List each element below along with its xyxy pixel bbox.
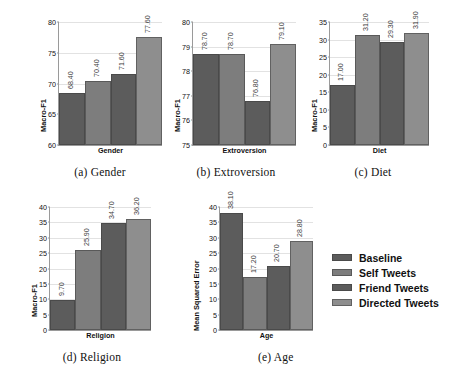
bar-value-label: 17.20 bbox=[250, 255, 258, 273]
bar[interactable] bbox=[245, 101, 271, 145]
y-tick-label: 10 bbox=[209, 295, 217, 304]
y-tick-label: 15 bbox=[209, 279, 217, 288]
bar-slot: 77.60 bbox=[136, 22, 162, 145]
plot-religion: Macro-F1 05101520253035409.7025.9034.703… bbox=[22, 199, 162, 375]
caption-diet: (c) Diet bbox=[303, 166, 443, 178]
y-tick-label: 35 bbox=[39, 218, 47, 227]
legend-item: Baseline bbox=[332, 250, 439, 265]
bar-slot: 79.10 bbox=[270, 22, 296, 145]
y-axis-title-extroversion: Macro-F1 bbox=[173, 99, 182, 132]
bar-value-label: 38.10 bbox=[227, 191, 235, 209]
y-tick-label: 80 bbox=[182, 18, 190, 27]
bar-slot: 71.60 bbox=[111, 22, 137, 145]
bar-value-label: 77.60 bbox=[144, 15, 152, 33]
bar[interactable] bbox=[193, 54, 219, 145]
bar[interactable] bbox=[270, 44, 296, 145]
axes-extroversion: 75767778798078.7078.7076.8079.10Extrover… bbox=[192, 22, 296, 146]
axes-age: 051015202530354038.1017.2020.7028.80Age bbox=[219, 207, 313, 331]
bar-value-label: 17.00 bbox=[338, 64, 346, 82]
y-tick-label: 0 bbox=[323, 141, 327, 150]
bar[interactable] bbox=[267, 266, 290, 330]
y-tick-label: 79 bbox=[182, 42, 190, 51]
bar-slot: 17.20 bbox=[243, 207, 266, 330]
legend-item: Friend Tweets bbox=[332, 280, 439, 295]
bar-value-label: 31.20 bbox=[362, 14, 370, 32]
bar[interactable] bbox=[50, 300, 75, 330]
bar[interactable] bbox=[126, 219, 151, 330]
y-tick-label: 35 bbox=[209, 218, 217, 227]
legend-swatch-friend-tweets bbox=[332, 284, 352, 291]
bar-value-label: 78.70 bbox=[227, 32, 235, 50]
bar-value-label: 79.10 bbox=[278, 22, 286, 40]
bar[interactable] bbox=[243, 277, 266, 330]
bar-value-label: 31.90 bbox=[412, 11, 420, 29]
bar[interactable] bbox=[404, 33, 429, 145]
y-tick-label: 0 bbox=[213, 326, 217, 335]
panel-age: Mean Squared Error 051015202530354038.10… bbox=[184, 199, 324, 375]
bar[interactable] bbox=[111, 74, 137, 145]
bar[interactable] bbox=[220, 213, 243, 330]
y-tick-label: 30 bbox=[209, 233, 217, 242]
y-tick-label: 25 bbox=[209, 249, 217, 258]
bar-group-extroversion: 78.7078.7076.8079.10 bbox=[193, 22, 296, 145]
caption-gender: (a) Gender bbox=[30, 166, 170, 178]
legend-item: Self Tweets bbox=[332, 265, 439, 280]
bar-slot: 31.90 bbox=[404, 22, 429, 145]
bar-value-label: 78.70 bbox=[201, 32, 209, 50]
bar-slot: 38.10 bbox=[220, 207, 243, 330]
bar[interactable] bbox=[59, 93, 85, 145]
bar-slot: 9.70 bbox=[50, 207, 75, 330]
y-tick-label: 25 bbox=[39, 249, 47, 258]
x-axis-label-extroversion: Extroversion bbox=[193, 146, 296, 155]
y-tick-label: 75 bbox=[182, 141, 190, 150]
bar[interactable] bbox=[85, 81, 111, 145]
y-axis-title-religion: Macro-F1 bbox=[30, 284, 39, 317]
y-tick-label: 20 bbox=[39, 264, 47, 273]
bar-value-label: 29.30 bbox=[387, 20, 395, 38]
bar-slot: 68.40 bbox=[59, 22, 85, 145]
bar[interactable] bbox=[75, 250, 100, 330]
bar-value-label: 34.70 bbox=[108, 202, 116, 220]
y-tick-label: 20 bbox=[209, 264, 217, 273]
legend-swatch-directed-tweets bbox=[332, 299, 352, 306]
y-tick-label: 5 bbox=[213, 310, 217, 319]
bar-slot: 31.20 bbox=[355, 22, 380, 145]
bar[interactable] bbox=[330, 85, 355, 145]
bar-slot: 34.70 bbox=[101, 207, 126, 330]
plot-gender: Macro-F1 606570758068.4070.4071.6077.60G… bbox=[30, 14, 170, 190]
y-tick-label: 10 bbox=[39, 295, 47, 304]
bar-group-age: 38.1017.2020.7028.80 bbox=[220, 207, 313, 330]
y-tick-label: 30 bbox=[319, 35, 327, 44]
bar-slot: 36.20 bbox=[126, 207, 151, 330]
y-axis-title-age: Mean Squared Error bbox=[192, 260, 201, 331]
x-axis-label-diet: Diet bbox=[330, 146, 429, 155]
plot-diet: Macro-F1 0510152025303517.0031.2029.3031… bbox=[303, 14, 443, 190]
y-tick-label: 10 bbox=[319, 105, 327, 114]
bar[interactable] bbox=[380, 42, 405, 145]
y-tick-label: 65 bbox=[48, 110, 56, 119]
legend-label-baseline: Baseline bbox=[359, 252, 402, 264]
y-tick-label: 60 bbox=[48, 141, 56, 150]
bar[interactable] bbox=[136, 37, 162, 145]
bar[interactable] bbox=[355, 35, 380, 145]
legend-label-directed-tweets: Directed Tweets bbox=[359, 297, 439, 309]
y-tick-label: 5 bbox=[323, 123, 327, 132]
legend-label-friend-tweets: Friend Tweets bbox=[359, 282, 429, 294]
bar-value-label: 9.70 bbox=[58, 282, 66, 296]
bar-slot: 78.70 bbox=[219, 22, 245, 145]
bar[interactable] bbox=[290, 241, 313, 330]
bar-slot: 78.70 bbox=[193, 22, 219, 145]
x-axis-label-gender: Gender bbox=[59, 146, 162, 155]
panel-religion: Macro-F1 05101520253035409.7025.9034.703… bbox=[22, 199, 162, 375]
figure-bar-chart-grid: Macro-F1 606570758068.4070.4071.6077.60G… bbox=[0, 0, 458, 382]
x-axis-label-age: Age bbox=[220, 331, 313, 340]
bar-group-religion: 9.7025.9034.7036.20 bbox=[50, 207, 151, 330]
bar[interactable] bbox=[101, 223, 126, 330]
bar-group-gender: 68.4070.4071.6077.60 bbox=[59, 22, 162, 145]
y-tick-label: 78 bbox=[182, 67, 190, 76]
bar-value-label: 28.80 bbox=[297, 220, 305, 238]
y-axis-title-diet: Macro-F1 bbox=[310, 99, 319, 132]
plot-age: Mean Squared Error 051015202530354038.10… bbox=[184, 199, 324, 375]
bar-group-diet: 17.0031.2029.3031.90 bbox=[330, 22, 429, 145]
bar[interactable] bbox=[219, 54, 245, 145]
